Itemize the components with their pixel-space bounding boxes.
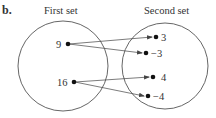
arrow-16-to-neg4	[75, 82, 144, 96]
first-set-circle	[18, 21, 108, 111]
point-4	[151, 75, 156, 80]
part-label: b.	[2, 3, 12, 17]
point-neg3	[144, 51, 149, 56]
point-3	[154, 35, 159, 40]
label-3: 3	[161, 32, 166, 43]
arrow-9-to-3	[69, 37, 152, 44]
mapping-diagram: b. First set Second set 9 16 3 −3 4 −4	[0, 0, 216, 118]
point-16	[72, 80, 77, 85]
arrow-16-to-4	[75, 77, 149, 82]
second-set-title: Second set	[144, 5, 189, 16]
first-set-title: First set	[44, 5, 78, 16]
label-4: 4	[161, 72, 167, 83]
label-16: 16	[57, 77, 68, 88]
point-neg4	[146, 94, 151, 99]
label-neg4: −4	[153, 91, 165, 102]
label-neg3: −3	[151, 48, 162, 59]
label-9: 9	[56, 39, 61, 50]
point-9	[66, 42, 71, 47]
